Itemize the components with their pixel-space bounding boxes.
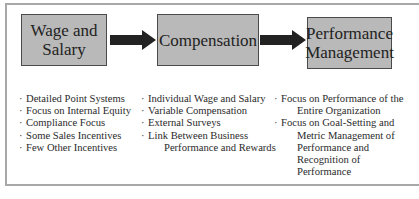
bullet-icon: ·: [141, 93, 148, 105]
bullet-list: ·Individual Wage and Salary ·Variable Co…: [141, 93, 276, 154]
bullet-icon: ·: [19, 130, 26, 142]
stage-box-performance-management: Performance Management: [307, 17, 392, 69]
stage-label-line1: Compensation: [159, 31, 257, 50]
bullet-icon: ·: [19, 117, 26, 129]
stage-label-line1: Wage and: [30, 21, 97, 40]
stage-label-line2: Salary: [30, 40, 97, 59]
bullet-list: ·Detailed Point Systems ·Focus on Intern…: [19, 93, 131, 154]
list-item: ·Detailed Point Systems: [19, 93, 131, 105]
stage-box-compensation: Compensation: [157, 14, 259, 66]
column-performance-management: ·Focus on Performance of theEntire Organ…: [274, 93, 403, 178]
stage-label-line1: Performance: [305, 24, 394, 43]
list-item: ·Few Other Incentives: [19, 142, 131, 154]
right-arrow-icon: [260, 29, 306, 51]
stage-label-line2: Management: [305, 43, 394, 62]
bullet-icon: ·: [141, 105, 148, 117]
list-item: ·Focus on Performance of theEntire Organ…: [274, 93, 403, 117]
bullet-icon: ·: [274, 117, 281, 129]
bullet-icon: ·: [19, 93, 26, 105]
list-item: ·External Surveys: [141, 117, 276, 129]
bullet-icon: ·: [19, 105, 26, 117]
column-compensation: ·Individual Wage and Salary ·Variable Co…: [141, 93, 276, 154]
bullet-icon: ·: [19, 142, 26, 154]
list-item: ·Variable Compensation: [141, 105, 276, 117]
list-item: ·Focus on Internal Equity: [19, 105, 131, 117]
list-item: ·Focus on Goal-Setting andMetric Managem…: [274, 117, 403, 178]
list-item: ·Link Between BusinessPerformance and Re…: [141, 130, 276, 154]
list-item: ·Some Sales Incentives: [19, 130, 131, 142]
bullet-icon: ·: [141, 130, 148, 142]
bullet-icon: ·: [141, 117, 148, 129]
column-wage-and-salary: ·Detailed Point Systems ·Focus on Intern…: [19, 93, 131, 154]
list-item: ·Compliance Focus: [19, 117, 131, 129]
bullet-list: ·Focus on Performance of theEntire Organ…: [274, 93, 403, 178]
bullet-icon: ·: [274, 93, 281, 105]
right-arrow-icon: [110, 29, 156, 51]
stage-box-wage-and-salary: Wage and Salary: [21, 14, 107, 66]
list-item: ·Individual Wage and Salary: [141, 93, 276, 105]
